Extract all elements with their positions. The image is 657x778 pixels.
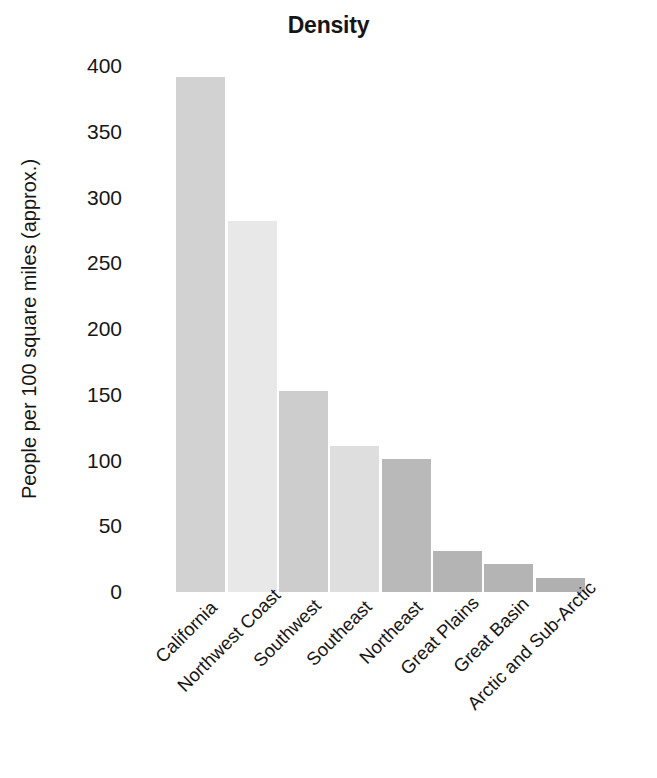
x-axis-tick-labels: CaliforniaNorthwest CoastSouthwestSouthe… bbox=[0, 596, 657, 778]
y-tick-label: 200 bbox=[48, 318, 122, 339]
plot-area bbox=[175, 66, 586, 592]
bar bbox=[382, 459, 431, 592]
y-tick-label: 300 bbox=[48, 187, 122, 208]
bar bbox=[279, 391, 328, 592]
y-tick-label: 150 bbox=[48, 384, 122, 405]
bar bbox=[176, 77, 225, 592]
bar bbox=[433, 551, 482, 592]
y-tick-label: 50 bbox=[48, 515, 122, 536]
y-tick-label: 250 bbox=[48, 252, 122, 273]
y-axis-title: People per 100 square miles (approx.) bbox=[18, 159, 41, 499]
y-tick-label: 400 bbox=[48, 55, 122, 76]
bar bbox=[330, 446, 379, 592]
bar bbox=[484, 564, 533, 592]
y-tick-label: 100 bbox=[48, 450, 122, 471]
y-tick-label: 350 bbox=[48, 121, 122, 142]
density-bar-chart: Density People per 100 square miles (app… bbox=[0, 0, 657, 778]
y-axis-title-container: People per 100 square miles (approx.) bbox=[14, 66, 44, 592]
bar bbox=[228, 221, 277, 592]
